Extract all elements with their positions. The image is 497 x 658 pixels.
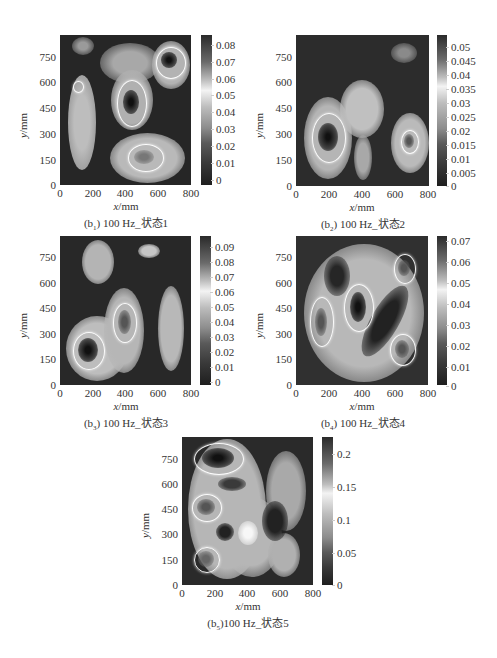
x-tick: 400: [112, 388, 138, 399]
colorbar-b2: [437, 35, 447, 186]
cbar-tick: 0.03: [451, 98, 470, 109]
x-tick: 400: [112, 188, 138, 199]
cbar-tick: 0.09: [215, 242, 234, 253]
cbar-tick: 0: [451, 381, 457, 392]
cbar-tick: 0.025: [451, 112, 476, 123]
cbar-tick: 0: [337, 580, 343, 591]
cbar-tick: 0.05: [337, 548, 356, 559]
x-tick: 0: [47, 188, 73, 199]
colorbar-b5: [322, 437, 333, 585]
cbar-tick: 0.02: [451, 341, 470, 352]
x-tick: 800: [178, 388, 204, 399]
y-tick: 300: [266, 329, 292, 340]
cbar-tick: 0.1: [337, 515, 351, 526]
cbar-tick: 0.07: [216, 57, 235, 68]
x-tick: 400: [349, 189, 375, 200]
cbar-tick: 0.07: [215, 272, 234, 283]
cbar-tick: 0.2: [337, 449, 351, 460]
cbar-tick: 0.03: [451, 320, 470, 331]
y-tick: 150: [266, 155, 292, 166]
cbar-tick: 0.02: [216, 141, 235, 152]
y-tick: 450: [266, 103, 292, 114]
panel-caption: (b3) 100 Hz_状态3: [46, 414, 206, 432]
y-tick: 450: [30, 103, 56, 114]
cbar-tick: 0.08: [215, 257, 234, 268]
y-tick: 750: [152, 454, 178, 465]
x-tick: 200: [80, 388, 106, 399]
heatmap-b3: [60, 236, 191, 385]
y-tick: 150: [30, 155, 56, 166]
cbar-tick: 0.02: [451, 126, 470, 137]
cbar-tick: 0.04: [451, 70, 470, 81]
cbar-tick: 0.01: [451, 362, 470, 373]
panel-caption: (b2) 100 Hz_状态2: [283, 215, 443, 233]
y-tick: 300: [152, 529, 178, 540]
cbar-tick: 0.08: [216, 40, 235, 51]
cbar-tick: 0.06: [451, 257, 470, 268]
y-tick: 150: [30, 354, 56, 365]
panel-caption: (b1) 100 Hz_状态1: [46, 214, 206, 232]
cbar-tick: 0.035: [451, 84, 476, 95]
x-tick: 800: [415, 189, 441, 200]
x-tick: 800: [415, 388, 441, 399]
y-tick: 600: [152, 479, 178, 490]
x-tick: 0: [283, 388, 309, 399]
cbar-tick: 0.01: [451, 154, 470, 165]
y-axis-label: y/mm: [253, 313, 265, 338]
cbar-tick: 0.05: [216, 90, 235, 101]
x-axis-label: x/mm: [218, 600, 278, 612]
y-axis-label: y/mm: [139, 513, 151, 538]
x-tick: 200: [316, 388, 342, 399]
x-axis-label: x/mm: [332, 400, 392, 412]
cbar-tick: 0.04: [216, 107, 235, 118]
x-tick: 600: [145, 188, 171, 199]
y-axis-label: y/mm: [17, 313, 29, 338]
x-tick: 400: [349, 388, 375, 399]
y-axis-label: y/mm: [17, 113, 29, 138]
cbar-tick: 0.015: [451, 140, 476, 151]
cbar-tick: 0.02: [215, 347, 234, 358]
y-tick: 750: [266, 52, 292, 63]
y-tick: 150: [266, 354, 292, 365]
y-tick: 750: [30, 252, 56, 263]
heatmap-b4: [296, 236, 428, 385]
cbar-tick: 0: [451, 181, 457, 192]
cbar-tick: 0.03: [215, 332, 234, 343]
y-tick: 600: [30, 278, 56, 289]
cbar-tick: 0.04: [215, 317, 234, 328]
x-tick: 200: [316, 189, 342, 200]
x-tick: 200: [80, 188, 106, 199]
x-tick: 0: [47, 388, 73, 399]
colorbar-b3: [200, 236, 211, 385]
cbar-tick: 0.05: [451, 278, 470, 289]
x-tick: 800: [300, 588, 326, 599]
y-tick: 600: [30, 77, 56, 88]
cbar-tick: 0.06: [215, 287, 234, 298]
x-tick: 600: [267, 588, 293, 599]
y-tick: 600: [266, 278, 292, 289]
x-tick: 200: [202, 588, 228, 599]
cbar-tick: 0.05: [215, 302, 234, 313]
y-tick: 300: [30, 329, 56, 340]
cbar-tick: 0.07: [451, 236, 470, 247]
y-tick: 300: [266, 129, 292, 140]
heatmap-b2: [296, 35, 429, 186]
x-tick: 800: [178, 188, 204, 199]
cbar-tick: 0.01: [216, 158, 235, 169]
x-tick: 600: [382, 388, 408, 399]
panel-caption: (b5)100 Hz_状态5: [168, 614, 328, 632]
y-tick: 600: [266, 77, 292, 88]
y-axis-label: y/mm: [253, 113, 265, 138]
y-tick: 450: [266, 303, 292, 314]
y-tick: 300: [30, 129, 56, 140]
x-tick: 0: [283, 189, 309, 200]
cbar-tick: 0.045: [451, 56, 476, 67]
y-tick: 750: [266, 252, 292, 263]
cbar-tick: 0: [215, 377, 221, 388]
x-tick: 400: [234, 588, 260, 599]
cbar-tick: 0.05: [451, 42, 470, 53]
x-axis-label: x/mm: [96, 200, 156, 212]
cbar-tick: 0.04: [451, 299, 470, 310]
heatmap-b5: [182, 437, 313, 585]
x-axis-label: x/mm: [332, 201, 392, 213]
